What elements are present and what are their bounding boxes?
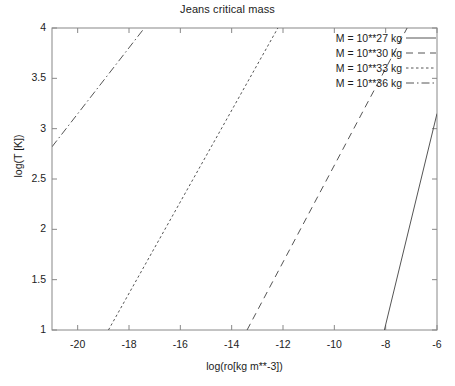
x-tick-label: -8 bbox=[366, 338, 406, 350]
x-axis-label: log(ro[kg m**-3]) bbox=[52, 360, 437, 372]
legend-item-label: M = 10**27 kg bbox=[336, 32, 402, 44]
chart-legend: M = 10**27 kgM = 10**30 kgM = 10**33 kgM… bbox=[332, 30, 436, 90]
y-tick-label: 3.5 bbox=[6, 71, 46, 83]
legend-line-sample bbox=[406, 33, 436, 43]
legend-line-sample bbox=[406, 63, 436, 73]
chart-figure: Jeans critical mass log(T [K]) log(ro[kg… bbox=[0, 0, 455, 386]
x-tick-label: -12 bbox=[263, 338, 303, 350]
series-line bbox=[384, 114, 437, 330]
series-line bbox=[108, 28, 277, 330]
legend-line-sample bbox=[406, 78, 436, 88]
x-tick-label: -14 bbox=[212, 338, 252, 350]
x-tick-label: -16 bbox=[160, 338, 200, 350]
x-tick-label: -18 bbox=[109, 338, 149, 350]
legend-item: M = 10**33 kg bbox=[332, 60, 436, 75]
legend-item-label: M = 10**30 kg bbox=[336, 47, 402, 59]
x-tick-label: -6 bbox=[417, 338, 455, 350]
x-tick-label: -10 bbox=[314, 338, 354, 350]
y-tick-label: 2 bbox=[6, 222, 46, 234]
legend-item: M = 10**27 kg bbox=[332, 30, 436, 45]
legend-line-sample bbox=[406, 48, 436, 58]
legend-item: M = 10**30 kg bbox=[332, 45, 436, 60]
legend-item-label: M = 10**36 kg bbox=[336, 77, 402, 89]
legend-item-label: M = 10**33 kg bbox=[336, 62, 402, 74]
y-tick-label: 3 bbox=[6, 122, 46, 134]
y-tick-label: 1 bbox=[6, 323, 46, 335]
y-tick-label: 4 bbox=[6, 21, 46, 33]
series-line bbox=[52, 28, 144, 147]
y-tick-label: 1.5 bbox=[6, 273, 46, 285]
x-tick-label: -20 bbox=[58, 338, 98, 350]
y-tick-label: 2.5 bbox=[6, 172, 46, 184]
legend-item: M = 10**36 kg bbox=[332, 75, 436, 90]
